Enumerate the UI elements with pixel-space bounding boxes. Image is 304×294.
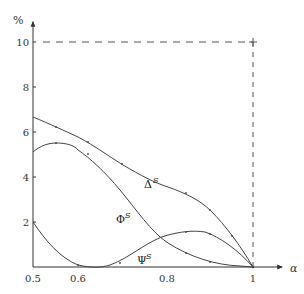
corner-cross-marker	[249, 38, 257, 46]
y-tick-label-10: 10	[16, 37, 29, 48]
x-axis-variable: α	[290, 262, 298, 275]
x-tick-label-0.8: 0.8	[159, 273, 175, 284]
x-tick-label-0.5: 0.5	[25, 273, 41, 284]
psi-s-label: Ψ S	[137, 252, 152, 267]
chart-canvas: 10 8 6 4 2 % 0.5 0.6 0.8 1 α Δ	[0, 0, 304, 294]
phi-s-curve	[33, 143, 253, 267]
phi-s-label: Φ S	[116, 211, 131, 226]
x-tick-label-0.6: 0.6	[70, 273, 86, 284]
svg-text:S: S	[153, 176, 159, 185]
y-axis-unit: %	[13, 14, 23, 27]
y-tick-label-8: 8	[23, 82, 29, 93]
svg-text:Δ: Δ	[144, 178, 152, 191]
delta-s-curve	[33, 117, 253, 267]
y-tick-label-6: 6	[23, 127, 29, 138]
y-tick-label-2: 2	[23, 217, 29, 228]
svg-text:Φ: Φ	[116, 213, 125, 226]
delta-s-label: Δ S	[144, 176, 159, 191]
y-tick-label-4: 4	[23, 172, 29, 183]
svg-text:S: S	[125, 211, 131, 220]
svg-text:S: S	[146, 252, 152, 261]
x-tick-label-1: 1	[250, 273, 256, 284]
curve-markers	[55, 126, 254, 268]
